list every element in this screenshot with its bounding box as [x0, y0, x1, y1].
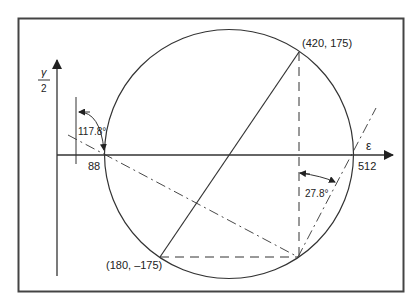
top-point-label: (420, 175) — [302, 37, 352, 49]
dash-dot-line-right — [298, 108, 376, 257]
right-intercept-label: 512 — [358, 160, 376, 172]
mohr-circle-diagram: γ 2 ε 88 512 (420, 175) (180, –175) 117.… — [0, 0, 417, 306]
mohr-circle — [105, 30, 354, 279]
bottom-point-label: (180, –175) — [106, 259, 162, 271]
left-angle-label: 117.8° — [78, 126, 106, 137]
angle-arc-right — [300, 173, 335, 182]
right-angle-label: 27.8° — [305, 188, 328, 199]
dash-dot-line-left — [68, 135, 298, 257]
gamma-denominator: 2 — [41, 83, 47, 94]
epsilon-label: ε — [366, 139, 372, 153]
left-intercept-label: 88 — [88, 160, 100, 172]
gamma-label: γ — [41, 66, 48, 78]
